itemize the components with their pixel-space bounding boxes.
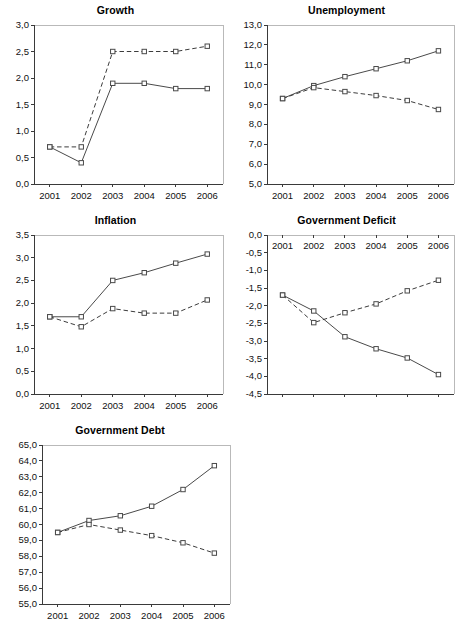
x-axis-tick-label: 2001 [39, 190, 60, 201]
panel-unemployment: Unemployment 5,06,07,08,09,010,011,012,0… [231, 4, 462, 210]
data-point-marker [212, 551, 216, 555]
data-point-marker [48, 145, 52, 149]
data-point-marker [111, 306, 115, 310]
y-axis-tick-label: 9,0 [249, 99, 262, 110]
data-point-marker [343, 89, 347, 93]
x-axis-tick-label: 2004 [134, 190, 155, 201]
panel-government-deficit: Government Deficit -4,5-4,0-3,5-3,0-2,5-… [231, 214, 462, 420]
data-point-marker [79, 161, 83, 165]
data-point-marker [280, 96, 284, 100]
x-axis-tick-label: 2004 [134, 400, 155, 411]
chart-svg: 0,00,51,01,52,02,53,03,52001200220032004… [0, 227, 231, 420]
x-axis-tick-label: 2003 [110, 610, 131, 621]
y-axis-tick-label: 64,0 [19, 455, 38, 466]
x-axis-tick-label: 2001 [272, 190, 293, 201]
y-axis-tick-label: 0,0 [249, 229, 262, 240]
series-line-dashed [283, 280, 439, 322]
data-point-marker [374, 302, 378, 306]
y-axis-tick-label: -2,5 [246, 317, 262, 328]
data-point-marker [405, 289, 409, 293]
data-point-marker [174, 261, 178, 265]
data-point-marker [436, 49, 440, 53]
chart-svg: 5,06,07,08,09,010,011,012,013,0200120022… [231, 17, 462, 210]
data-point-marker [111, 278, 115, 282]
chart-svg: -4,5-4,0-3,5-3,0-2,5-2,0-1,5-1,0-0,50,02… [231, 227, 462, 420]
y-axis-tick-label: 8,0 [249, 118, 262, 129]
data-point-marker [405, 356, 409, 360]
x-axis-tick-label: 2006 [204, 610, 225, 621]
data-point-marker [280, 293, 284, 297]
y-axis-tick-label: -0,5 [246, 247, 262, 258]
x-axis-tick-label: 2004 [366, 190, 387, 201]
x-axis-tick-label: 2001 [39, 400, 60, 411]
y-axis-tick-label: 57,0 [19, 566, 38, 577]
x-axis-tick-label: 2004 [141, 610, 162, 621]
y-axis-tick-label: 59,0 [19, 534, 38, 545]
y-axis-tick-label: 56,0 [19, 582, 38, 593]
data-point-marker [312, 320, 316, 324]
data-point-marker [79, 315, 83, 319]
data-point-marker [111, 49, 115, 53]
data-point-marker [181, 487, 185, 491]
data-point-marker [374, 347, 378, 351]
x-axis-tick-label: 2004 [366, 240, 387, 251]
y-axis-tick-label: 2,5 [16, 46, 29, 57]
data-point-marker [212, 463, 216, 467]
chart-title: Government Debt [0, 424, 240, 436]
x-axis-tick-label: 2005 [165, 190, 186, 201]
chart-svg: 55,056,057,058,059,060,061,062,063,064,0… [0, 437, 240, 630]
plot-area: 5,06,07,08,09,010,011,012,013,0200120022… [231, 17, 462, 210]
x-axis-tick-label: 2002 [303, 190, 324, 201]
data-point-marker [205, 298, 209, 302]
x-axis-tick-label: 2006 [428, 240, 449, 251]
data-point-marker [79, 145, 83, 149]
data-point-marker [142, 311, 146, 315]
series-line-solid [50, 83, 208, 163]
y-axis-tick-label: 7,0 [249, 138, 262, 149]
series-line-solid [283, 295, 439, 375]
plot-area: -4,5-4,0-3,5-3,0-2,5-2,0-1,5-1,0-0,50,02… [231, 227, 462, 420]
data-point-marker [343, 335, 347, 339]
data-point-marker [205, 44, 209, 48]
x-axis-tick-label: 2005 [397, 240, 418, 251]
y-axis-tick-label: -1,0 [246, 264, 262, 275]
y-axis-tick-label: 1,0 [16, 125, 29, 136]
chart-title: Inflation [0, 214, 231, 226]
y-axis-tick-label: 0,0 [16, 388, 29, 399]
data-point-marker [55, 530, 59, 534]
data-point-marker [118, 514, 122, 518]
x-axis-tick-label: 2005 [165, 400, 186, 411]
data-point-marker [181, 541, 185, 545]
series-line-solid [50, 254, 208, 317]
data-point-marker [149, 533, 153, 537]
x-axis-tick-label: 2003 [102, 400, 123, 411]
chart-title: Unemployment [231, 4, 462, 16]
data-point-marker [87, 522, 91, 526]
data-point-marker [205, 86, 209, 90]
series-line-dashed [50, 46, 208, 147]
y-axis-tick-label: 63,0 [19, 471, 38, 482]
data-point-marker [312, 309, 316, 313]
series-line-dashed [58, 525, 215, 554]
data-point-marker [142, 271, 146, 275]
y-axis-tick-label: 2,0 [16, 72, 29, 83]
data-point-marker [174, 86, 178, 90]
y-axis-tick-label: -3,0 [246, 335, 262, 346]
y-axis-tick-label: 1,5 [16, 99, 29, 110]
x-axis-tick-label: 2005 [172, 610, 193, 621]
y-axis-tick-label: 2,5 [16, 274, 29, 285]
y-axis-tick-label: 2,0 [16, 297, 29, 308]
x-axis-tick-label: 2006 [428, 190, 449, 201]
data-point-marker [205, 252, 209, 256]
plot-area: 0,00,51,01,52,02,53,03,52001200220032004… [0, 227, 231, 420]
data-point-marker [343, 74, 347, 78]
x-axis-tick-label: 2006 [197, 190, 218, 201]
data-point-marker [79, 325, 83, 329]
x-axis-tick-label: 2002 [71, 190, 92, 201]
data-point-marker [374, 67, 378, 71]
y-axis-tick-label: 12,0 [244, 39, 263, 50]
data-point-marker [405, 59, 409, 63]
y-axis-tick-label: -4,5 [246, 388, 262, 399]
series-line-solid [58, 466, 215, 533]
data-point-marker [142, 81, 146, 85]
